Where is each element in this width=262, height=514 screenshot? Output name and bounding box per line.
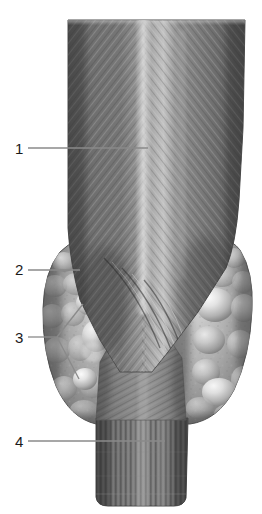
anatomical-figure: 1 2 3 4 <box>0 0 262 514</box>
label-number-3: 3 <box>15 330 23 345</box>
label-number-1: 1 <box>15 141 23 156</box>
label-number-4: 4 <box>15 434 23 449</box>
label-number-2: 2 <box>15 262 23 277</box>
thyroid-illustration-svg <box>0 0 262 514</box>
trachea-lower <box>92 414 192 510</box>
parathyroid-nodule-inferior <box>73 368 97 390</box>
